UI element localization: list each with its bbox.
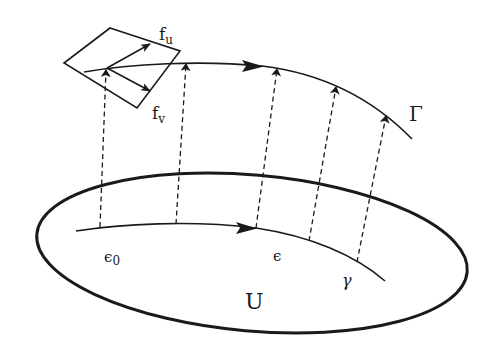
- diagram-canvas: fu fv Γ ϵ0 ϵ γ U: [0, 0, 490, 351]
- lift-arrow-5: [357, 116, 386, 262]
- f-v-vector: [107, 68, 150, 91]
- domain-ellipse: [30, 156, 474, 349]
- label-U: U: [245, 289, 264, 314]
- Gamma-direction-arrow-icon: [242, 60, 264, 72]
- Gamma-curve: [84, 60, 412, 139]
- lift-arrow-3: [256, 69, 277, 228]
- label-f-u: fu: [159, 24, 173, 47]
- lift-arrow-1: [100, 70, 106, 227]
- label-epsilon-0: ϵ0: [104, 248, 120, 268]
- label-epsilon: ϵ: [273, 247, 281, 265]
- label-gamma: γ: [342, 271, 352, 290]
- lift-arrows: [100, 64, 386, 262]
- lift-arrow-2: [176, 64, 186, 224]
- lift-arrow-4: [309, 87, 336, 241]
- label-f-v: fv: [152, 103, 165, 126]
- gamma-curve: [76, 222, 385, 281]
- label-Gamma: Γ: [409, 102, 423, 126]
- gamma-direction-arrow-icon: [236, 222, 257, 234]
